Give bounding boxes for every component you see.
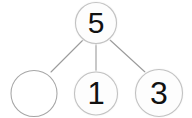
whole-circle[interactable] bbox=[76, 3, 117, 44]
number-bond-diagram: 5 1 3 bbox=[0, 0, 192, 118]
connector-whole-to-right-part bbox=[110, 40, 145, 72]
whole-circle-group[interactable] bbox=[73, 0, 119, 46]
left-part-circle[interactable] bbox=[11, 71, 57, 117]
middle-part-circle[interactable] bbox=[75, 72, 118, 115]
right-part-circle[interactable] bbox=[136, 70, 183, 117]
number-bond-canvas bbox=[0, 0, 192, 118]
left-part-circle-group[interactable] bbox=[11, 71, 57, 117]
right-part-circle-group[interactable] bbox=[133, 67, 185, 118]
middle-part-circle-group[interactable] bbox=[72, 70, 120, 118]
connector-whole-to-left-part bbox=[51, 40, 83, 72]
